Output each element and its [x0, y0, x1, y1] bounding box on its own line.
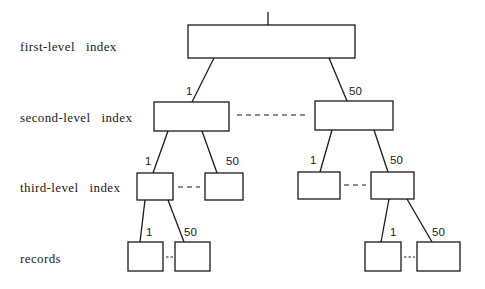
second-level-index-box-left [154, 102, 229, 131]
third-level-index-box-c [298, 172, 340, 199]
edge-label-l2-right-right: 50 [390, 154, 403, 166]
edge-l2-right-to-l3-c [320, 130, 332, 172]
edge-l3-a-to-record-2 [168, 200, 184, 242]
edge-label-root-left: 1 [186, 85, 192, 97]
edge-label-l2-right-left: 1 [310, 154, 316, 166]
edge-label-root-right: 50 [349, 85, 362, 97]
edge-root-to-l2-left [192, 58, 214, 102]
edge-l3-a-to-record-1 [140, 200, 145, 242]
edge-l2-left-to-l3-a [153, 131, 168, 173]
edge-root-to-l2-right [329, 58, 347, 101]
third-level-index-box-d [371, 172, 414, 199]
third-level-index-box-b [205, 173, 243, 200]
level-label-second: second-level index [20, 110, 132, 125]
edge-label-l3-left-right: 50 [184, 226, 197, 238]
edge-l3-d-to-record-4 [407, 199, 432, 242]
level-label-third: third-level index [20, 180, 120, 195]
level-label-first: first-level index [20, 39, 117, 54]
edge-l3-d-to-record-3 [381, 199, 389, 242]
edge-label-l2-left-right: 50 [226, 155, 239, 167]
edge-label-l3-right-left: 1 [390, 226, 396, 238]
record-box-2 [175, 242, 210, 271]
record-box-4 [417, 242, 460, 271]
record-box-3 [365, 242, 401, 271]
record-box-1 [128, 242, 163, 271]
index-tree-diagram: first-level index second-level index thi… [0, 0, 485, 289]
first-level-index-box [188, 25, 355, 58]
level-label-records: records [20, 251, 61, 266]
second-level-index-box-right [315, 101, 393, 130]
edge-l2-left-to-l3-b [202, 131, 217, 173]
edge-label-l3-right-right: 50 [432, 226, 445, 238]
edge-label-l2-left-left: 1 [145, 155, 151, 167]
third-level-index-box-a [137, 173, 173, 200]
edge-label-l3-left-left: 1 [146, 226, 152, 238]
edge-l2-right-to-l3-d [374, 130, 388, 172]
